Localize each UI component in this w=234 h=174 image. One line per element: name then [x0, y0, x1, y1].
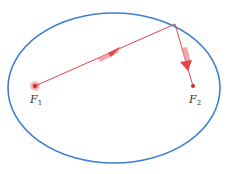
focus-2-label: F2 — [188, 93, 201, 107]
ellipse-reflection-diagram: F1 F2 — [0, 0, 234, 174]
reflected-arrowhead-icon — [180, 60, 192, 71]
focus-2-dot — [191, 84, 195, 88]
focus-1-label: F1 — [29, 93, 42, 107]
focus-1-dot — [33, 84, 37, 88]
